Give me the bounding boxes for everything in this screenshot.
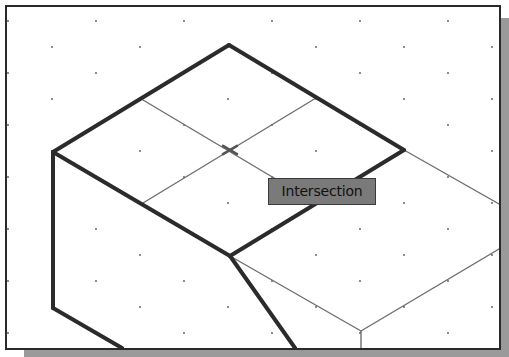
grid-dot [7, 20, 9, 22]
grid-dot [139, 46, 141, 48]
object-edge[interactable] [230, 256, 295, 348]
grid-dot [51, 98, 53, 100]
grid-dot [491, 46, 493, 48]
object-edge[interactable] [53, 152, 230, 256]
construction-line[interactable] [404, 150, 499, 204]
grid-dot [447, 176, 449, 178]
object-edge[interactable] [53, 308, 122, 348]
grid-dot [183, 280, 185, 282]
grid-dot [315, 254, 317, 256]
grid-dot [139, 150, 141, 152]
grid-dot [7, 176, 9, 178]
grid-dot [7, 332, 9, 334]
cad-drawing-screenshot: Intersection [0, 0, 509, 357]
grid-dot [271, 20, 273, 22]
grid-dot [447, 124, 449, 126]
grid-dot [403, 202, 405, 204]
grid-dot [447, 72, 449, 74]
isometric-drawing[interactable] [5, 5, 501, 350]
grid-dot [403, 254, 405, 256]
construction-line[interactable] [361, 249, 499, 331]
osnap-tooltip-label: Intersection [282, 183, 363, 199]
construction-lines [143, 98, 499, 348]
grid-dot [139, 306, 141, 308]
grid-dot [227, 202, 229, 204]
grid-dot [491, 306, 493, 308]
grid-dot [447, 332, 449, 334]
grid-dot [359, 280, 361, 282]
grid-dot [447, 228, 449, 230]
grid-dot [51, 46, 53, 48]
grid-dot [139, 254, 141, 256]
grid-dot [95, 72, 97, 74]
grid-dot [183, 20, 185, 22]
grid-dot [271, 332, 273, 334]
intersection-x-marker-icon [223, 146, 237, 154]
grid-dot [95, 20, 97, 22]
grid-dot [403, 46, 405, 48]
grid-dot [359, 228, 361, 230]
grid-dot [491, 202, 493, 204]
grid-dot [491, 150, 493, 152]
grid-dot [95, 228, 97, 230]
frame-shadow-bottom [24, 350, 509, 357]
drawing-viewport[interactable]: Intersection [5, 5, 501, 350]
grid-dot [315, 46, 317, 48]
grid-dot [95, 280, 97, 282]
construction-line[interactable] [230, 256, 361, 331]
grid-dot [491, 254, 493, 256]
grid-dot [7, 124, 9, 126]
grid-dot [183, 332, 185, 334]
grid-dot [359, 20, 361, 22]
grid-dot [227, 98, 229, 100]
grid-dot [491, 98, 493, 100]
grid-dot [447, 20, 449, 22]
grid-dot [7, 228, 9, 230]
grid-dot [403, 98, 405, 100]
frame-shadow-right [501, 18, 509, 357]
grid-dot [7, 280, 9, 282]
grid-dot [7, 72, 9, 74]
grid-dot [359, 72, 361, 74]
grid-dot [315, 150, 317, 152]
grid-dot [227, 306, 229, 308]
osnap-tooltip: Intersection [268, 178, 376, 205]
